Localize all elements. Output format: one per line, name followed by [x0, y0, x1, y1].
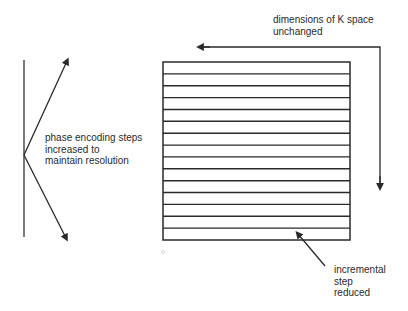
step-label-line1: incremental — [334, 264, 386, 276]
kspace-dimensions-label: dimensions of K space unchanged — [273, 14, 374, 37]
kspace-grid — [163, 62, 350, 240]
phase-encoding-label: phase encoding steps increased to mainta… — [45, 132, 142, 167]
kspace-dimension-bracket — [201, 47, 380, 186]
phase-label-line1: phase encoding steps — [45, 132, 142, 144]
incremental-step-label: incremental step reduced — [334, 264, 386, 299]
kspace-label-line1: dimensions of K space — [273, 14, 374, 26]
phase-label-line2: increased to — [45, 144, 142, 156]
kspace-label-line2: unchanged — [273, 26, 374, 38]
step-label-line2: step — [334, 276, 386, 288]
scan-artifact — [162, 251, 165, 254]
phase-lower-arrow — [24, 155, 66, 238]
step-arrow — [298, 234, 325, 266]
kspace-diagram: dimensions of K space unchanged phase en… — [0, 0, 408, 311]
phase-label-line3: maintain resolution — [45, 155, 142, 167]
step-label-line3: reduced — [334, 287, 386, 299]
